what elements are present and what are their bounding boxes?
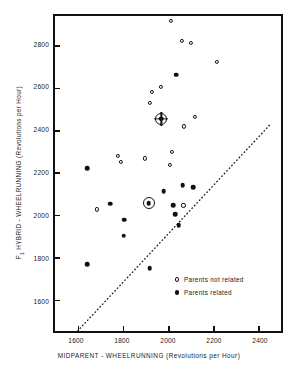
open-circle-icon [170, 277, 184, 281]
data-point-related [191, 185, 196, 190]
data-point-related [122, 217, 127, 222]
x-axis-title: MIDPARENT - WHEELRUNNING (Revolutions pe… [0, 352, 298, 359]
data-point-related [121, 233, 126, 238]
y-tick-label: 2000 [34, 212, 49, 219]
legend-label: Parents related [184, 289, 232, 296]
y-tick-label: 1600 [34, 298, 49, 305]
data-point-related [161, 189, 166, 194]
data-point-related [174, 73, 179, 78]
legend-item-related: Parents related [170, 286, 278, 299]
x-tick-label: 2200 [206, 337, 221, 344]
y-axis-title-subscript: 1 [19, 252, 25, 255]
data-point-related [176, 223, 181, 228]
y-tick-label: 2400 [34, 126, 49, 133]
legend-item-not-related: Parents not related [170, 273, 278, 286]
data-point-related [180, 183, 185, 188]
plot-frame: Parents not related Parents related [53, 14, 283, 333]
y-tick-label: 2800 [34, 40, 49, 47]
data-point-related [171, 203, 176, 208]
crosshair-center-dot [159, 116, 164, 121]
y-tick-label: 2600 [34, 83, 49, 90]
y-axis-title-f: F [15, 255, 22, 259]
x-tick-label: 1600 [68, 337, 83, 344]
data-point-related [108, 201, 113, 206]
y-axis-title-rest: HYBRID - WHEELRUNNING (Revolutions per H… [15, 86, 22, 252]
mean-marker-dot [147, 201, 152, 206]
data-point-related [147, 266, 152, 271]
legend-label: Parents not related [184, 276, 244, 283]
y-tick-label: 2200 [34, 169, 49, 176]
data-point-related [85, 166, 90, 171]
x-tick-label: 2000 [160, 337, 175, 344]
x-tick-label: 1800 [114, 337, 129, 344]
x-axis-tick-labels: 1600 1800 2000 2200 2400 [53, 337, 283, 349]
data-point-related [173, 212, 178, 217]
data-point-related [85, 262, 90, 267]
y-axis-title: F1 HYBRID - WHEELRUNNING (Revolutions pe… [15, 57, 24, 289]
legend: Parents not related Parents related [170, 273, 278, 299]
filled-circle-icon [170, 290, 184, 295]
y-tick-label: 1800 [34, 255, 49, 262]
x-tick-label: 2400 [252, 337, 267, 344]
scatter-plot-figure: 2800 2600 2400 2200 2000 1800 1600 1600 … [0, 0, 298, 371]
